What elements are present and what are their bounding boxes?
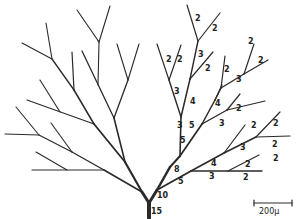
scale-bar: 200μ [254,200,292,216]
branch-order-label: 10 [157,191,169,200]
branch-order-label: 15 [151,207,163,216]
branch-order-label: 2 [177,55,183,64]
branch-order-label: 2 [224,65,230,74]
branch-order-label: 3 [177,121,183,130]
branch-order-label: 2 [245,160,251,169]
branch-order-label: 2 [258,56,264,65]
branch-order-label: 3 [240,143,246,152]
branch-order-label: 3 [174,87,180,96]
scale-bar-label: 200μ [259,207,279,216]
branch-order-label: 3 [219,119,225,128]
branch-order-label: 5 [178,177,184,186]
branch-order-labels: 151058553432232222322423223224232 [151,14,279,216]
branch-order-label: 2 [273,154,279,163]
branch-order-label: 4 [215,99,221,108]
branching-tree-diagram: 151058553432232222322423223224232 200μ [0,0,299,219]
branch-order-label: 5 [180,136,186,145]
branch-order-label: 2 [248,37,254,46]
tree-svg: 151058553432232222322423223224232 200μ [0,0,299,219]
branch-order-label: 8 [174,165,180,174]
branch-order-label: 5 [189,121,195,130]
branch-order-label: 3 [236,75,242,84]
branch-order-label: 2 [205,64,211,73]
branch-order-label: 2 [243,173,249,182]
branch-order-label: 3 [209,172,215,181]
branch-order-label: 3 [198,50,204,59]
branch-order-label: 2 [212,24,218,33]
branch-order-label: 2 [195,14,201,23]
branch-order-label: 2 [166,55,172,64]
branch-order-label: 2 [272,140,278,149]
branch-order-label: 4 [211,159,217,168]
branch-order-label: 4 [190,97,196,106]
branch-order-label: 2 [273,119,279,128]
branch-order-label: 2 [236,104,242,113]
branch-order-label: 2 [251,121,257,130]
